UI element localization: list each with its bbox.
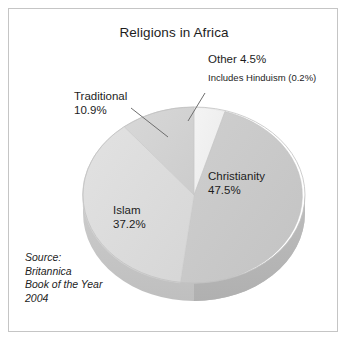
- source-note-line3: Book of the Year: [25, 278, 102, 292]
- slice-label-islam: Islam 37.2%: [113, 203, 146, 231]
- slice-annotation-other: Includes Hinduism (0.2%): [208, 72, 316, 85]
- chart-canvas: Religions in Africa: [0, 0, 348, 342]
- source-note-line4: 2004: [25, 292, 102, 306]
- source-note-line2: Britannica: [25, 265, 102, 279]
- source-note: Source: Britannica Book of the Year 2004: [25, 251, 102, 305]
- slice-label-traditional: Traditional 10.9%: [74, 89, 127, 117]
- source-note-line1: Source:: [25, 251, 102, 265]
- slice-label-other: Other 4.5%: [208, 52, 266, 66]
- slice-label-christianity: Christianity 47.5%: [208, 169, 265, 197]
- slice-label-other-text: Other 4.5%: [208, 53, 266, 65]
- slice-label-traditional-pct: 10.9%: [74, 103, 127, 117]
- slice-annotation-other-line1: Includes Hinduism: [208, 72, 286, 83]
- slice-annotation-other-line2: (0.2%): [288, 72, 316, 83]
- slice-label-islam-name: Islam: [113, 204, 140, 216]
- slice-label-traditional-name: Traditional: [74, 90, 127, 102]
- slice-label-christianity-pct: 47.5%: [208, 183, 265, 197]
- slice-label-christianity-name: Christianity: [208, 170, 265, 182]
- slice-label-islam-pct: 37.2%: [113, 217, 146, 231]
